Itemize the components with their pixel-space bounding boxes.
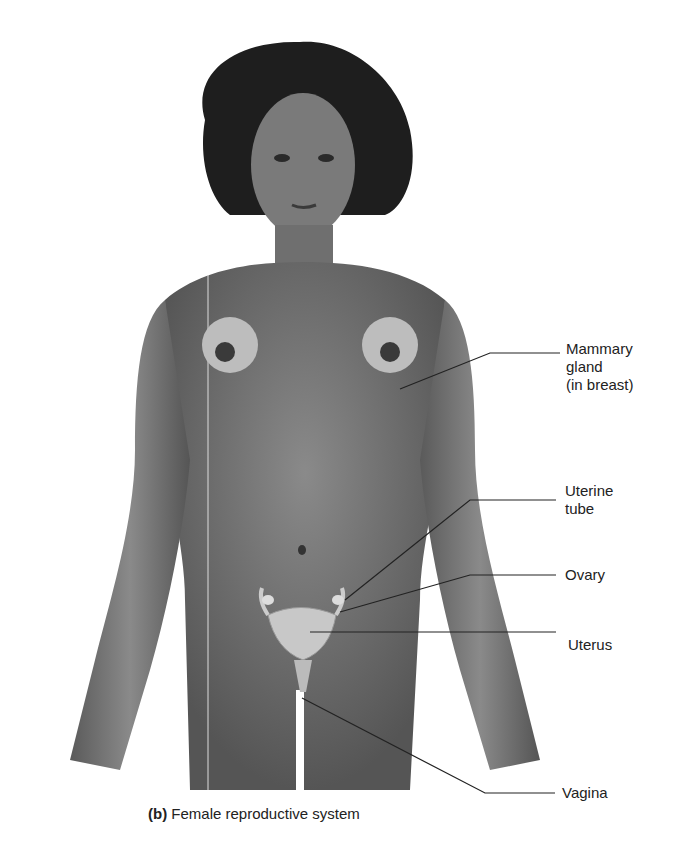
label-uterus-text: Uterus [568,636,612,654]
female-reproductive-diagram: Mammary gland (in breast) Uterine tube O… [0,0,695,854]
label-ovary: Ovary [565,566,605,584]
label-uterine-line2: tube [565,500,613,518]
caption-text: Female reproductive system [171,805,359,822]
right-arm [420,300,540,770]
left-arm [70,300,190,770]
label-uterine-tube: Uterine tube [565,482,613,518]
label-mammary-line2: gland [566,358,634,376]
label-uterus: Uterus [568,636,612,654]
label-ovary-text: Ovary [565,566,605,584]
ovary-left [262,595,274,605]
anatomy-illustration [0,0,695,854]
label-vagina: Vagina [562,784,608,802]
label-mammary-line1: Mammary [566,340,634,358]
label-mammary-line3: (in breast) [566,376,634,394]
face [251,93,355,237]
label-vagina-text: Vagina [562,784,608,802]
caption-prefix: (b) [148,805,167,822]
label-mammary-gland: Mammary gland (in breast) [566,340,634,394]
ovary-right [332,595,344,605]
figure-caption: (b) Female reproductive system [148,805,360,822]
label-uterine-line1: Uterine [565,482,613,500]
